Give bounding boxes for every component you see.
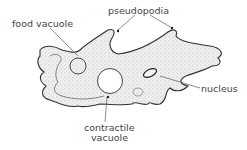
label-contractile-vacuole-2: vacuole xyxy=(91,133,128,143)
label-food-vacuole: food vacuole xyxy=(12,19,73,29)
label-nucleus: nucleus xyxy=(201,84,238,94)
leader-pseudopodia-left xyxy=(118,15,135,30)
amoeba-body xyxy=(38,29,221,106)
contractile-vacuole xyxy=(98,69,123,94)
food-vacuole xyxy=(70,58,86,74)
leader-pseudopodia-right xyxy=(150,15,172,28)
label-pseudopodia: pseudopodia xyxy=(108,6,169,16)
